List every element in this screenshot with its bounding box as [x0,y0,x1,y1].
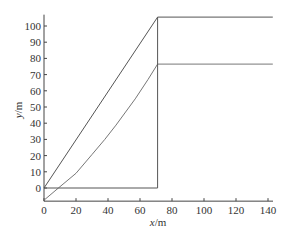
x-tick-label: 0 [41,204,47,216]
y-tick-label: 20 [30,150,42,162]
series-line-0 [44,17,273,188]
x-tick-label: 140 [260,204,277,216]
axes: 0102030405060708090100020406080100120140 [25,15,277,216]
line-chart: 0102030405060708090100020406080100120140… [0,0,286,235]
y-axis-label: y/m [12,101,24,119]
y-tick-label: 80 [30,52,42,64]
x-tick-label: 60 [135,204,147,216]
x-tick-label: 120 [228,204,245,216]
y-tick-label: 10 [30,166,42,178]
y-tick-label: 90 [30,36,42,48]
y-tick-label: 40 [30,117,42,129]
y-tick-label: 0 [36,182,42,194]
y-tick-label: 50 [30,101,42,113]
series-layer [44,17,273,200]
x-axis-label: x/m [149,216,167,228]
y-tick-label: 60 [30,85,42,97]
y-tick-label: 100 [25,20,42,32]
x-tick-label: 80 [167,204,179,216]
series-line-1 [44,64,273,200]
x-tick-label: 40 [103,204,115,216]
x-tick-label: 20 [71,204,83,216]
y-tick-label: 30 [30,133,42,145]
x-tick-label: 100 [196,204,213,216]
y-tick-label: 70 [30,69,42,81]
